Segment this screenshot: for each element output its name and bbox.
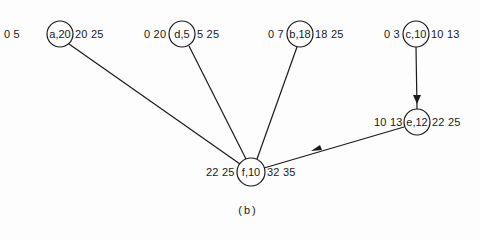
node-a-label: a,20: [49, 28, 70, 40]
node-a-right-times: 20 25: [75, 28, 104, 40]
arrow-head-icon: [311, 145, 322, 151]
edge-a-f: [69, 44, 240, 164]
edge-b-f: [257, 47, 297, 159]
figure-caption: (b): [238, 204, 257, 216]
node-b-right-times: 18 25: [315, 28, 344, 40]
node-f-right-times: 32 35: [267, 166, 296, 178]
node-c-right-times: 10 13: [431, 28, 460, 40]
edge-d-f: [189, 46, 246, 159]
node-d-left-times: 0 20: [144, 28, 166, 40]
node-e-left-times: 10 13: [374, 116, 403, 128]
edge-e-f: [264, 127, 404, 168]
arrow-head-icon: [413, 95, 421, 104]
node-c-left-times: 0 3: [384, 28, 400, 40]
node-d-label: d,5: [174, 28, 189, 40]
node-e-label: e,12: [406, 116, 427, 128]
node-e-right-times: 22 25: [432, 116, 461, 128]
node-d-right-times: 5 25: [197, 28, 219, 40]
node-a-left-times: 0 5: [4, 28, 20, 40]
node-f-left-times: 22 25: [206, 166, 235, 178]
node-f-label: f,10: [242, 166, 260, 178]
node-b-left-times: 0 7: [268, 28, 284, 40]
node-b-label: b,18: [289, 28, 310, 40]
node-c-label: c,10: [406, 28, 427, 40]
